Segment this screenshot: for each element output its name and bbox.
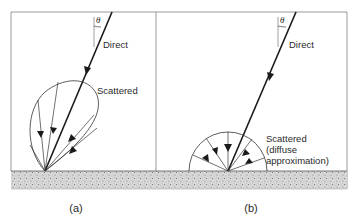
- scattered-label: Scattered: [266, 133, 307, 144]
- scattered-label-line2: (diffuse: [266, 144, 297, 155]
- direct-label: Direct: [103, 39, 128, 50]
- panel-a-caption: (a): [69, 202, 82, 214]
- angle-arc: [278, 26, 286, 27]
- scattered-label: Scattered: [97, 85, 138, 96]
- theta-symbol: θ: [96, 15, 101, 25]
- scattered-arrow-icons: [202, 144, 253, 164]
- direct-arrow-icon: [267, 72, 274, 81]
- angle-arc: [94, 26, 101, 27]
- panel-b-caption: (b): [244, 202, 257, 214]
- ground-surface: [11, 171, 347, 189]
- theta-symbol: θ: [280, 15, 285, 25]
- direct-label: Direct: [289, 39, 314, 50]
- scattered-rays: [193, 132, 264, 171]
- direct-arrow-icon: [84, 66, 91, 75]
- scattered-label-line3: approximation): [266, 155, 329, 166]
